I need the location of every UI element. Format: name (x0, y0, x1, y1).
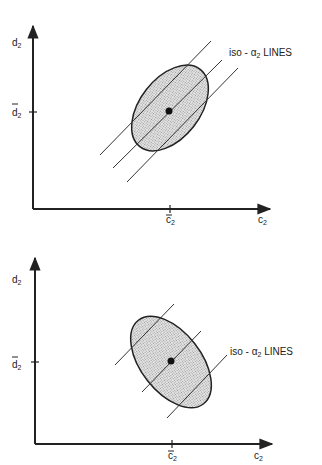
x-axis-label: c2 (254, 450, 263, 462)
y-axis-label: d2 (12, 274, 22, 286)
y-axis-label: d2 (12, 37, 22, 49)
mean-point (168, 358, 175, 365)
panel-top: d2 d2 c2 c2 iso - α2 LINES (12, 26, 292, 226)
x-mean-label: c2 (166, 214, 175, 226)
svg-text:c2: c2 (166, 214, 175, 226)
x-axis-label: c2 (258, 214, 267, 226)
mean-point (166, 108, 173, 115)
svg-text:c2: c2 (168, 450, 177, 462)
svg-text:d2: d2 (12, 107, 22, 119)
panel-bottom: d2 d2 c2 c2 iso - α2 LINES (12, 258, 293, 462)
x-mean-label: c2 (168, 450, 177, 462)
iso-lines-annotation: iso - α2 LINES (230, 346, 293, 358)
y-mean-label: d2 (12, 357, 22, 371)
y-mean-label: d2 (12, 104, 22, 119)
figure: d2 d2 c2 c2 iso - α2 LINES d2 (0, 0, 322, 465)
svg-text:d2: d2 (12, 359, 22, 371)
iso-lines-annotation: iso - α2 LINES (229, 47, 292, 59)
